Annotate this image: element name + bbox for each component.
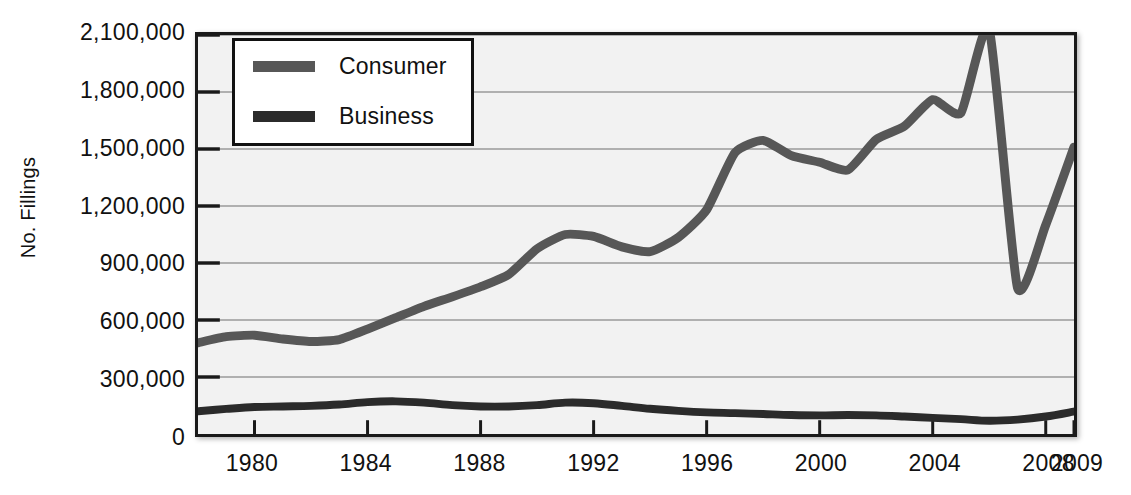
series-line-business bbox=[198, 401, 1074, 420]
y-tick-label: 600,000 bbox=[20, 308, 185, 335]
x-tick-label: 1988 bbox=[453, 450, 505, 477]
line-chart: No. Fillings 2,100,0001,800,0001,500,000… bbox=[0, 0, 1131, 495]
y-tick-label: 900,000 bbox=[20, 250, 185, 277]
legend-item-consumer[interactable]: Consumer bbox=[235, 41, 471, 91]
y-tick-label: 0 bbox=[20, 424, 185, 451]
y-axis-tick-labels: 2,100,0001,800,0001,500,0001,200,000900,… bbox=[10, 0, 185, 495]
y-tick-label: 1,200,000 bbox=[20, 192, 185, 219]
y-tick-label: 1,500,000 bbox=[20, 134, 185, 161]
legend-swatch-icon bbox=[253, 111, 315, 122]
y-tick-label: 1,800,000 bbox=[20, 76, 185, 103]
x-tick-label: 2004 bbox=[909, 450, 961, 477]
legend-label: Business bbox=[339, 103, 434, 130]
x-tick-label: 2009 bbox=[1051, 450, 1103, 477]
legend-label: Consumer bbox=[339, 53, 447, 80]
y-tick-label: 300,000 bbox=[20, 366, 185, 393]
legend: ConsumerBusiness bbox=[232, 38, 474, 146]
legend-item-business[interactable]: Business bbox=[235, 91, 471, 141]
x-tick-label: 1992 bbox=[567, 450, 619, 477]
legend-swatch-icon bbox=[253, 61, 315, 72]
x-tick-label: 1980 bbox=[226, 450, 278, 477]
y-tick-label: 2,100,000 bbox=[20, 19, 185, 46]
x-tick-label: 2000 bbox=[795, 450, 847, 477]
x-tick-label: 1984 bbox=[340, 450, 392, 477]
x-tick-label: 1996 bbox=[681, 450, 733, 477]
